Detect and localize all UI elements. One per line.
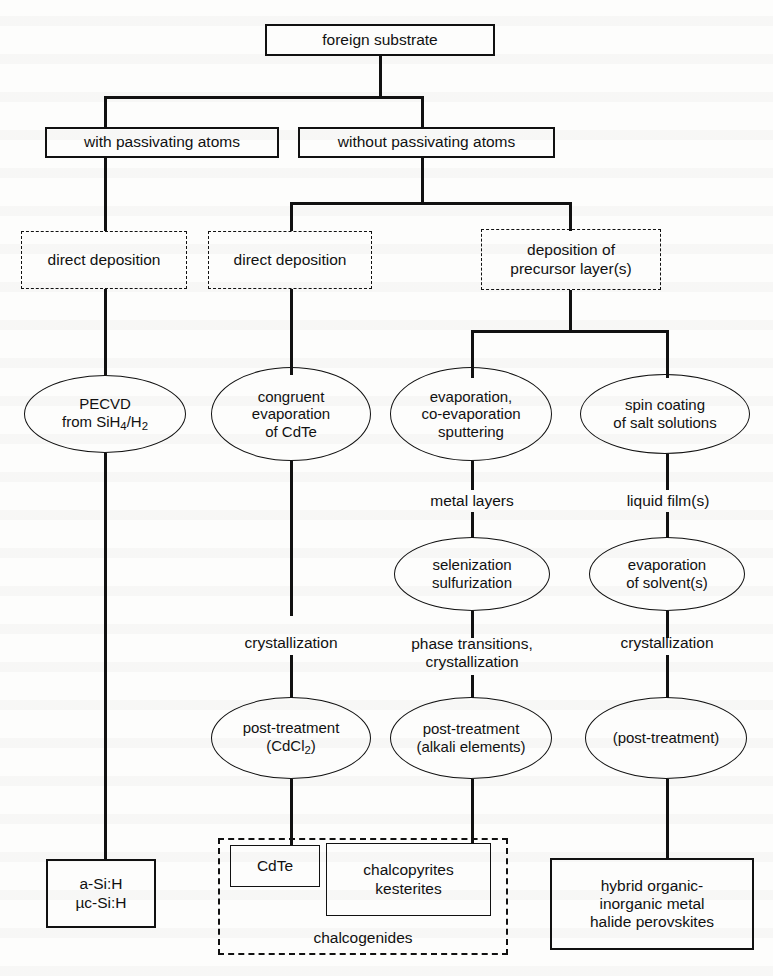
node-direct-deposition-mid-label: direct deposition xyxy=(234,251,347,269)
node-hybrid-perovskites: hybrid organic- inorganic metal halide p… xyxy=(550,858,754,950)
connector-precursor-stem xyxy=(569,290,572,332)
node-pecvd-line2-sub2: 2 xyxy=(142,419,148,431)
node-post-treatment-alkali: post-treatment (alkali elements) xyxy=(390,697,552,779)
connector-precursor-to-spincoating xyxy=(666,330,669,378)
node-foreign-substrate: foreign substrate xyxy=(265,24,495,56)
node-direct-deposition-mid: direct deposition xyxy=(208,231,372,289)
node-selenization-line2: sulfurization xyxy=(432,574,512,592)
connector-root-split xyxy=(104,96,424,99)
connector-crystallization-left-to-posttreatment xyxy=(290,655,293,698)
node-pecvd-line2-a: from SiH xyxy=(62,413,120,430)
connector-root-to-with xyxy=(104,96,107,128)
label-crystallization-left: crystallization xyxy=(216,632,366,654)
connector-evap-to-metal-layers xyxy=(471,461,474,490)
node-spin-coating: spin coating of salt solutions xyxy=(580,374,750,454)
node-post-cdcl2-line2-b: ) xyxy=(311,737,316,754)
node-post-cdcl2-line2: (CdCl2) xyxy=(266,737,316,757)
connector-post-alkali-to-chalcopyrites xyxy=(471,779,474,843)
node-evap-sputter-line1: evaporation, xyxy=(430,388,513,406)
connector-direct-left-to-pecvd xyxy=(104,289,107,375)
connector-without-stem xyxy=(421,158,424,204)
flowchart-canvas: foreign substrate with passivating atoms… xyxy=(0,0,773,976)
node-selenization-sulfurization: selenization sulfurization xyxy=(394,537,550,611)
node-perovskites-line1: hybrid organic- xyxy=(601,877,704,895)
node-post-optional-label: (post-treatment) xyxy=(613,729,720,747)
connector-root-stem xyxy=(379,56,382,98)
node-post-cdcl2-line1: post-treatment xyxy=(243,719,340,737)
label-liquid-films-text: liquid film(s) xyxy=(627,492,710,510)
node-chalcopyrites-line1: chalcopyrites xyxy=(363,861,453,879)
label-crystallization-right-text: crystallization xyxy=(620,634,713,652)
node-evap-sputter-line3: sputtering xyxy=(438,423,504,441)
node-cdte-label: CdTe xyxy=(257,857,293,875)
connector-to-direct-mid xyxy=(290,202,293,231)
node-congruent-line1: congruent xyxy=(258,388,325,406)
node-deposition-precursor-line1: deposition of xyxy=(527,241,615,259)
label-metal-layers: metal layers xyxy=(396,490,548,512)
node-deposition-precursor-layers: deposition of precursor layer(s) xyxy=(481,229,661,290)
node-perovskites-line2: inorganic metal xyxy=(599,895,704,913)
label-crystallization-left-text: crystallization xyxy=(244,634,337,652)
label-crystallization-right: crystallization xyxy=(592,632,742,654)
node-evap-solvents-line1: evaporation xyxy=(628,556,706,574)
connector-pecvd-to-asih xyxy=(104,453,107,859)
connector-post-optional-to-perovskites xyxy=(666,779,669,858)
node-chalcopyrites-kesterites: chalcopyrites kesterites xyxy=(326,843,491,916)
node-pecvd: PECVD from SiH4/H2 xyxy=(24,375,186,453)
node-a-si-h-line1: a-Si:H xyxy=(79,875,122,893)
node-chalcopyrites-line2: kesterites xyxy=(375,880,441,898)
node-post-treatment-cdcl2: post-treatment (CdCl2) xyxy=(211,697,371,779)
connector-spin-to-liquid-films xyxy=(666,454,669,490)
node-perovskites-line3: halide perovskites xyxy=(590,913,714,931)
node-post-alkali-line2: (alkali elements) xyxy=(416,738,525,756)
node-a-si-h: a-Si:H µc-Si:H xyxy=(46,859,156,928)
connector-post-cdcl2-to-cdte xyxy=(290,779,293,845)
node-post-cdcl2-line2-a: (CdCl xyxy=(266,737,304,754)
node-evap-solvents-line2: of solvent(s) xyxy=(626,574,708,592)
node-congruent-line2: evaporation xyxy=(252,405,330,423)
node-with-passivating-atoms-label: with passivating atoms xyxy=(84,133,240,151)
connector-congruent-to-crystallization xyxy=(290,461,293,616)
connector-crystallization-right-to-posttreatment xyxy=(666,655,669,698)
label-phase-transitions-line1: phase transitions, xyxy=(411,635,533,653)
node-post-treatment-optional: (post-treatment) xyxy=(585,697,747,779)
connector-phase-transitions-to-posttreatment xyxy=(471,675,474,698)
connector-without-split xyxy=(290,202,572,205)
connector-to-precursor xyxy=(569,202,572,231)
node-spin-coating-line1: spin coating xyxy=(625,396,705,414)
node-spin-coating-line2: of salt solutions xyxy=(613,414,716,432)
node-post-alkali-line1: post-treatment xyxy=(423,720,520,738)
node-selenization-line1: selenization xyxy=(432,556,511,574)
node-pecvd-line2-b: /H xyxy=(127,413,142,430)
label-phase-transitions: phase transitions, crystallization xyxy=(384,633,560,673)
connector-liquid-films-to-evaporation-solvents xyxy=(666,512,669,538)
label-phase-transitions-line2: crystallization xyxy=(425,653,518,671)
connector-precursor-split xyxy=(471,330,668,333)
node-pecvd-line2: from SiH4/H2 xyxy=(62,413,148,433)
node-pecvd-line1: PECVD xyxy=(79,395,131,413)
node-congruent-line3: of CdTe xyxy=(265,423,317,441)
label-liquid-films: liquid film(s) xyxy=(592,490,744,512)
node-with-passivating-atoms: with passivating atoms xyxy=(45,127,279,158)
node-direct-deposition-left: direct deposition xyxy=(21,231,187,289)
connector-with-to-direct-left xyxy=(104,158,107,231)
node-cdte: CdTe xyxy=(230,845,320,887)
label-metal-layers-text: metal layers xyxy=(430,492,514,510)
node-deposition-precursor-line2: precursor layer(s) xyxy=(510,260,631,278)
node-a-si-h-line2: µc-Si:H xyxy=(75,894,126,912)
node-evaporation-sputtering: evaporation, co-evaporation sputtering xyxy=(390,367,552,461)
connector-root-to-without xyxy=(421,96,424,128)
node-congruent-evaporation-cdte: congruent evaporation of CdTe xyxy=(211,367,371,461)
node-without-passivating-atoms: without passivating atoms xyxy=(298,127,555,158)
node-direct-deposition-left-label: direct deposition xyxy=(48,251,161,269)
connector-metal-layers-to-selenization xyxy=(471,512,474,538)
connector-direct-mid-to-congruent xyxy=(290,289,293,375)
node-evap-sputter-line2: co-evaporation xyxy=(421,405,520,423)
node-evaporation-of-solvents: evaporation of solvent(s) xyxy=(589,537,745,611)
node-without-passivating-atoms-label: without passivating atoms xyxy=(338,133,515,151)
node-foreign-substrate-label: foreign substrate xyxy=(322,31,437,49)
group-chalcogenides-label: chalcogenides xyxy=(313,929,412,947)
